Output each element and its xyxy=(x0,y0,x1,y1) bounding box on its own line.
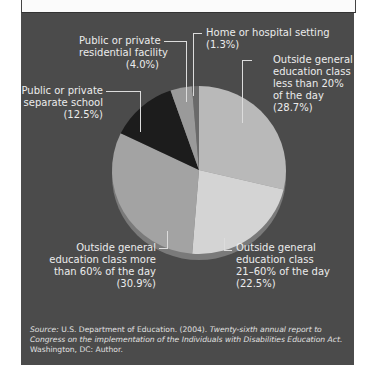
label-separate: Public or privateseparate school(12.5%) xyxy=(21,85,103,121)
leader-lt20 xyxy=(242,60,252,123)
leader-home xyxy=(193,33,202,96)
label-home: Home or hospital setting(1.3%) xyxy=(206,27,330,51)
title-band xyxy=(21,0,356,13)
label-gt60: Outside generaleducation class morethan … xyxy=(46,242,156,290)
label-mid: Outside generaleducation class21–60% of … xyxy=(236,242,330,290)
label-residential: Public or privateresidential facility(4.… xyxy=(79,35,159,71)
leader-mid xyxy=(224,238,232,251)
source-citation: Source: U.S. Department of Education. (2… xyxy=(30,325,350,355)
label-lt20: Outside generaleducation classless than … xyxy=(273,54,353,114)
leader-gt60 xyxy=(159,231,168,249)
chart-panel: Home or hospital setting(1.3%) Public or… xyxy=(21,13,354,365)
leader-separate xyxy=(106,91,141,132)
